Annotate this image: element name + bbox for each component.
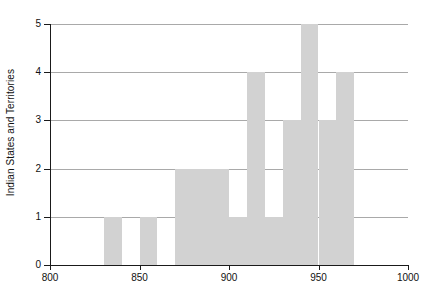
histogram-bar [336, 72, 354, 265]
x-tick-label-900: 900 [209, 272, 249, 283]
x-tick-label-1000: 1000 [388, 272, 428, 283]
y-tick-label-4: 4 [23, 67, 41, 77]
y-tick-1 [44, 217, 50, 218]
y-tick-2 [44, 169, 50, 170]
y-tick-label-2: 2 [23, 164, 41, 174]
y-tick-label-0: 0 [23, 260, 41, 270]
histogram-bar [104, 217, 122, 265]
x-tick-label-950: 950 [299, 272, 339, 283]
y-tick-label-1: 1 [23, 212, 41, 222]
histogram-bar [319, 120, 337, 265]
y-axis-title: Indian States and Territories [2, 0, 18, 265]
histogram-bar [193, 169, 211, 265]
histogram-bar [301, 24, 319, 265]
histogram-bar [247, 72, 265, 265]
histogram-bar [265, 217, 283, 265]
x-tick-950 [319, 265, 320, 270]
y-axis-line [50, 24, 51, 266]
y-tick-label-3: 3 [23, 115, 41, 125]
y-tick-4 [44, 72, 50, 73]
histogram-figure: Indian States and Territories 012345 800… [0, 0, 432, 300]
histogram-bar [211, 169, 229, 265]
y-axis-title-text: Indian States and Territories [5, 69, 16, 196]
x-tick-850 [140, 265, 141, 270]
histogram-bar [140, 217, 158, 265]
x-tick-label-850: 850 [120, 272, 160, 283]
y-tick-3 [44, 120, 50, 121]
x-tick-1000 [408, 265, 409, 270]
x-tick-800 [50, 265, 51, 270]
bars-group [50, 24, 408, 265]
y-tick-5 [44, 24, 50, 25]
histogram-bar [283, 120, 301, 265]
histogram-bar [229, 217, 247, 265]
x-tick-label-800: 800 [30, 272, 70, 283]
screenshot-root: Indian States and Territories 012345 800… [0, 0, 432, 300]
histogram-bar [175, 169, 193, 265]
x-tick-900 [229, 265, 230, 270]
y-tick-label-5: 5 [23, 19, 41, 29]
